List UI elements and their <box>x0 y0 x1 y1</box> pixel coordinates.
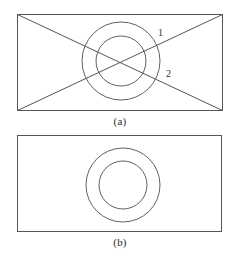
panel-a-caption: (a) <box>88 116 152 127</box>
panel-b <box>18 136 222 232</box>
figure-root: 1 2 (a) (b) <box>0 0 239 256</box>
leader-label-2: 2 <box>166 69 171 79</box>
panel-a-inner-circle <box>96 36 146 86</box>
panel-a-outer-circle <box>82 22 160 100</box>
panel-b-outer-circle <box>86 148 160 222</box>
panel-a <box>18 15 223 111</box>
leader-label-1: 1 <box>158 28 163 38</box>
panel-b-inner-circle <box>99 161 147 209</box>
panel-b-rectangle <box>18 136 222 232</box>
panel-b-caption: (b) <box>88 237 152 248</box>
technical-diagram <box>0 0 239 256</box>
